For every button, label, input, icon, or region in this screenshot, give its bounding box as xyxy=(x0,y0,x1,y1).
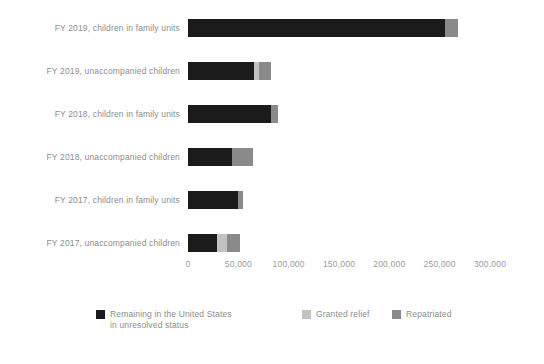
bar-segment xyxy=(238,191,243,209)
category-label: FY 2019, children in family units xyxy=(10,23,180,33)
x-tick-label: 150,000 xyxy=(323,258,355,270)
bar-segment xyxy=(188,62,254,80)
bar-row xyxy=(188,234,240,252)
category-label: FY 2017, unaccompanied children xyxy=(10,238,180,248)
bar-segment xyxy=(217,234,227,252)
x-tick-label: 50,000 xyxy=(225,258,252,270)
x-tick-label: 100,000 xyxy=(273,258,305,270)
stacked-bar-chart: FY 2019, children in family unitsFY 2019… xyxy=(0,0,544,364)
legend-swatch-icon xyxy=(96,310,105,319)
bar-row xyxy=(188,105,278,123)
bar-segment xyxy=(188,234,217,252)
bar-segment xyxy=(271,105,278,123)
bar-row xyxy=(188,19,458,37)
bar-segment xyxy=(232,148,253,166)
bar-row xyxy=(188,148,253,166)
legend-label: Granted relief xyxy=(316,309,370,320)
x-axis: 050,000100,000150,000200,000250,000300,0… xyxy=(188,258,490,274)
category-label: FY 2019, unaccompanied children xyxy=(10,66,180,76)
legend-label: Repatriated xyxy=(406,309,452,320)
category-label: FY 2018, children in family units xyxy=(10,109,180,119)
category-axis-labels: FY 2019, children in family unitsFY 2019… xyxy=(8,0,180,264)
legend-item[interactable]: Repatriated xyxy=(392,309,452,320)
x-tick-label: 250,000 xyxy=(424,258,456,270)
bar-segment xyxy=(188,19,445,37)
legend-swatch-icon xyxy=(302,310,311,319)
legend-item[interactable]: Remaining in the United States in unreso… xyxy=(96,309,232,330)
legend-label: Remaining in the United States in unreso… xyxy=(110,309,232,330)
plot-area xyxy=(188,0,490,264)
bar-row xyxy=(188,62,271,80)
bar-segment xyxy=(445,19,458,37)
bar-segment xyxy=(188,105,271,123)
chart-legend: Remaining in the United States in unreso… xyxy=(96,309,456,343)
legend-swatch-icon xyxy=(392,310,401,319)
legend-item[interactable]: Granted relief xyxy=(302,309,370,320)
bar-segment xyxy=(188,191,238,209)
x-tick-label: 200,000 xyxy=(373,258,405,270)
bar-row xyxy=(188,191,243,209)
bar-segment xyxy=(259,62,270,80)
category-label: FY 2017, children in family units xyxy=(10,195,180,205)
category-label: FY 2018, unaccompanied children xyxy=(10,152,180,162)
x-tick-label: 300,000 xyxy=(474,258,506,270)
x-tick-label: 0 xyxy=(186,258,191,270)
bar-segment xyxy=(227,234,240,252)
bar-segment xyxy=(188,148,232,166)
